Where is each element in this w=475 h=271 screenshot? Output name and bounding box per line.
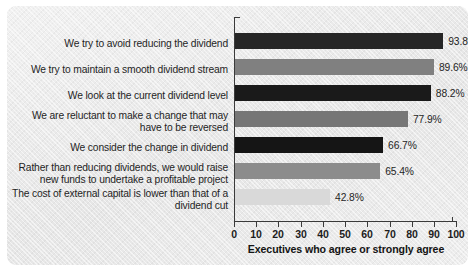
- bar-5: [235, 163, 380, 179]
- x-axis-title: Executives who agree or strongly agree: [234, 243, 458, 255]
- value-label: 88.2%: [436, 88, 465, 99]
- bar-3: [235, 111, 408, 127]
- category-label: The cost of external capital is lower th…: [10, 188, 228, 211]
- x-tick: [278, 222, 279, 227]
- x-tick: [323, 222, 324, 227]
- x-tick: [234, 222, 235, 227]
- x-axis-end-cap: [452, 217, 453, 222]
- value-label: 93.8%: [448, 36, 468, 47]
- x-tick: [367, 222, 368, 227]
- value-label: 77.9%: [413, 114, 442, 125]
- category-label: We try to avoid reducing the dividend: [10, 38, 228, 50]
- bar-1: [235, 59, 434, 75]
- value-label: 42.8%: [335, 192, 364, 203]
- chart-figure: We try to avoid reducing the dividend We…: [7, 6, 468, 265]
- value-label: 65.4%: [385, 166, 414, 177]
- bar-0: [235, 33, 443, 49]
- bar-6: [235, 189, 330, 205]
- category-label: We look at the current dividend level: [10, 90, 228, 102]
- x-tick: [256, 222, 257, 227]
- value-label: 66.7%: [388, 140, 417, 151]
- y-axis-top-cap: [235, 17, 240, 18]
- bar-2: [235, 85, 431, 101]
- bar-4: [235, 137, 383, 153]
- x-tick-label: 100: [443, 228, 468, 240]
- category-label: We are reluctant to make a change that m…: [10, 110, 228, 133]
- x-tick: [456, 222, 457, 227]
- x-tick: [412, 222, 413, 227]
- x-tick: [390, 222, 391, 227]
- value-label: 89.6%: [439, 62, 468, 73]
- x-tick: [345, 222, 346, 227]
- category-label: We try to maintain a smooth dividend str…: [10, 64, 228, 76]
- category-label: We consider the change in dividend: [10, 142, 228, 154]
- category-label: Rather than reducing dividends, we would…: [10, 162, 228, 185]
- x-tick: [301, 222, 302, 227]
- x-tick: [434, 222, 435, 227]
- bar-chart-plot-area: We try to avoid reducing the dividend We…: [7, 6, 468, 265]
